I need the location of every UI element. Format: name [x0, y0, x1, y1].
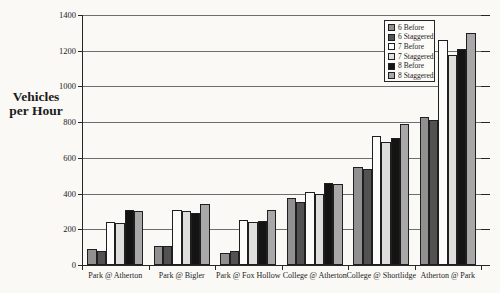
bar — [429, 120, 438, 265]
bar — [372, 136, 381, 265]
bar — [305, 192, 314, 265]
bar — [172, 210, 181, 265]
bar — [400, 124, 409, 265]
scanned-chart-page: Vehicles per Hour 0200400600800100012001… — [0, 0, 500, 293]
bar — [200, 204, 209, 265]
bar — [333, 184, 342, 265]
x-axis-tick — [415, 265, 416, 270]
right-tick — [481, 229, 490, 230]
right-tick — [481, 122, 490, 123]
legend-item: 8 Staggered — [388, 71, 434, 81]
bar — [258, 221, 267, 265]
legend-item: 8 Before — [388, 61, 434, 71]
bar — [324, 183, 333, 265]
legend-swatch-icon — [388, 53, 395, 60]
bar — [315, 194, 324, 265]
bar — [154, 246, 163, 265]
y-tick-label: 800 — [50, 118, 76, 127]
legend-item: 7 Staggered — [388, 52, 434, 62]
bar — [353, 167, 362, 265]
bar — [115, 223, 124, 265]
legend: 6 Before6 Staggered7 Before7 Staggered8 … — [384, 20, 435, 82]
bar — [438, 40, 447, 265]
bar — [267, 210, 276, 265]
right-tick — [481, 265, 490, 266]
category-label: Atherton @ Park — [405, 271, 492, 280]
legend-swatch-icon — [388, 63, 395, 70]
legend-label: 8 Before — [398, 62, 424, 70]
bar — [363, 169, 372, 265]
gridline — [82, 86, 481, 87]
y-axis — [82, 15, 83, 266]
right-tick — [481, 15, 490, 16]
x-axis-tick — [348, 265, 349, 270]
legend-label: 7 Before — [398, 43, 424, 51]
bar — [220, 253, 229, 266]
y-tick-label: 200 — [50, 225, 76, 234]
y-tick-label: 400 — [50, 190, 76, 199]
bar — [248, 222, 257, 265]
bar — [134, 211, 143, 265]
x-axis-tick — [82, 265, 83, 270]
bar — [230, 251, 239, 265]
bar — [381, 142, 390, 265]
legend-label: 6 Staggered — [398, 33, 434, 41]
legend-item: 6 Before — [388, 23, 434, 33]
bar — [457, 49, 466, 265]
right-tick — [481, 51, 490, 52]
legend-label: 7 Staggered — [398, 53, 434, 61]
x-axis-tick — [149, 265, 150, 270]
legend-swatch-icon — [388, 34, 395, 41]
y-tick-label: 600 — [50, 154, 76, 163]
bar — [87, 249, 96, 265]
legend-swatch-icon — [388, 43, 395, 50]
legend-item: 6 Staggered — [388, 33, 434, 43]
bar — [97, 251, 106, 265]
bar — [466, 33, 475, 265]
legend-label: 8 Staggered — [398, 72, 434, 80]
legend-swatch-icon — [388, 72, 395, 79]
bar — [420, 117, 429, 265]
right-tick — [481, 194, 490, 195]
bar — [296, 202, 305, 265]
bar — [125, 210, 134, 265]
y-tick-label: 0 — [50, 261, 76, 270]
legend-label: 6 Before — [398, 24, 424, 32]
y-tick-label: 1400 — [50, 11, 76, 20]
y-tick-label: 1000 — [50, 82, 76, 91]
right-tick — [481, 158, 490, 159]
legend-swatch-icon — [388, 24, 395, 31]
x-axis-tick — [282, 265, 283, 270]
x-axis-tick — [481, 265, 482, 270]
bar — [391, 138, 400, 265]
bar — [191, 213, 200, 265]
bar — [182, 211, 191, 265]
bar — [287, 198, 296, 265]
bar — [448, 55, 457, 265]
bar — [163, 246, 172, 265]
y-tick-label: 1200 — [50, 47, 76, 56]
right-tick — [481, 86, 490, 87]
gridline — [82, 15, 481, 16]
legend-item: 7 Before — [388, 42, 434, 52]
x-axis-tick — [215, 265, 216, 270]
bar — [239, 220, 248, 265]
bar — [106, 222, 115, 265]
